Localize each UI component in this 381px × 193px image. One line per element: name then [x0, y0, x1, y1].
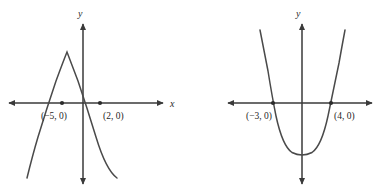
left-graph-intercept-dot-minus5 [60, 101, 64, 105]
right-graph: (−3, 0) (4, 0) y [228, 8, 372, 184]
left-graph-intercept-label-2: (2, 0) [103, 111, 124, 122]
right-graph-y-axis-label: y [295, 8, 301, 19]
left-graph-intercept-dot-2 [98, 101, 102, 105]
parabolas-figure: (−5, 0) (2, 0) y x (−3, 0) (4, 0) y [0, 0, 381, 193]
left-graph-intercept-label-minus5: (−5, 0) [41, 111, 67, 122]
figure-container: (−5, 0) (2, 0) y x (−3, 0) (4, 0) y [0, 0, 381, 193]
right-graph-intercept-label-4: (4, 0) [334, 111, 355, 122]
left-graph-y-axis-label: y [77, 8, 83, 19]
left-graph-x-axis-label: x [169, 98, 175, 109]
right-graph-intercept-dot-4 [329, 101, 333, 105]
right-graph-intercept-label-minus3: (−3, 0) [246, 111, 272, 122]
left-graph: (−5, 0) (2, 0) y x [9, 8, 175, 184]
right-graph-intercept-dot-minus3 [271, 101, 275, 105]
